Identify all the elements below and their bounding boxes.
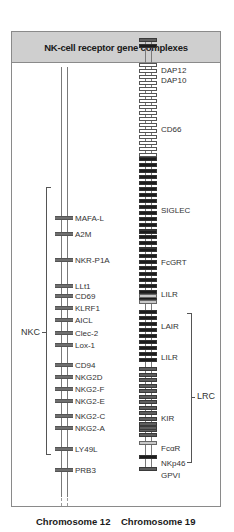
chr19-gene-label: KIR: [161, 414, 174, 423]
chr19-gene-block: [139, 378, 157, 382]
chr12-gene-marker: [55, 426, 73, 430]
chr19-gene-block: [139, 384, 157, 388]
nkc-label: NKC: [21, 328, 40, 337]
chr19-gene-block: [139, 223, 157, 227]
chr19-gene-block: [139, 294, 157, 298]
chr12-rail-right-dashed: [67, 498, 68, 506]
chr19-gene-block: [139, 163, 157, 167]
chr12-gene-marker: [55, 216, 73, 220]
chr19-gene-label: SIGLEC: [161, 206, 190, 215]
chr19-gene-block: [139, 395, 157, 399]
chr19-gene-block: [139, 241, 157, 245]
chr19-gene-block: [139, 411, 157, 415]
chr12-gene-label: KLRF1: [75, 304, 100, 313]
chr19-gene-block: [139, 211, 157, 215]
chr19-gene-label: FcαR: [161, 444, 180, 453]
chr19-gene-block: [139, 417, 157, 421]
chr19-gene-block: [139, 111, 157, 115]
chr19-gene-block: [139, 340, 157, 344]
chr12-rail-left-dashed: [61, 498, 62, 506]
chr19-gene-block: [139, 44, 157, 48]
chr12-gene-marker: [55, 414, 73, 418]
chr19-gene-block: [139, 87, 157, 91]
figure-frame: NK-cell receptor gene complexes MAFA-LA2…: [11, 31, 221, 507]
chr12-gene-marker: [55, 258, 73, 262]
chr19-gene-block: [139, 272, 157, 276]
chr12-gene-label: PRB3: [75, 466, 96, 475]
chr19-gene-label: FcGRT: [161, 258, 187, 267]
chr12-gene-label: CD69: [75, 292, 95, 301]
chr12-gene-marker: [55, 294, 73, 298]
chr19-gene-block: [139, 278, 157, 282]
figure-title: NK-cell receptor gene complexes: [44, 42, 188, 53]
chr19-gene-block: [139, 433, 157, 437]
chr19-gene-block: [139, 135, 157, 139]
chr12-gene-label: NKG2-E: [75, 397, 105, 406]
chr19-gene-block: [139, 406, 157, 410]
lrc-bracket: [187, 313, 192, 463]
chr19-gene-block: [139, 467, 157, 471]
chr19-gene-block: [139, 181, 157, 185]
chr19-gene-block: [139, 260, 157, 264]
chr19-gene-block: [139, 367, 157, 371]
chr12-gene-marker: [55, 306, 73, 310]
chr19-gene-block: [139, 328, 157, 332]
chr12-gene-label: NKG2D: [75, 373, 103, 382]
chr12-rail-right: [67, 67, 68, 497]
chr19-gene-block: [139, 346, 157, 350]
chr12-gene-label: MAFA-L: [75, 214, 104, 223]
chr12-gene-marker: [55, 232, 73, 236]
chr19-gene-label: NKp46: [161, 459, 185, 468]
chr19-gene-label: GPVI: [161, 471, 180, 480]
chr19-gene-label: DAP12: [161, 66, 186, 75]
chr19-gene-block: [139, 235, 157, 239]
chr12-gene-label: NKR-P1A: [75, 256, 110, 265]
chr19-gene-block: [139, 441, 157, 445]
chr19-gene-block: [139, 205, 157, 209]
chr19-gene-block: [139, 217, 157, 221]
chr19-gene-block: [139, 75, 157, 79]
lrc-label: LRC: [197, 392, 215, 401]
lrc-tick: [192, 397, 195, 398]
chr19-gene-block: [139, 389, 157, 393]
chr19-gene-block: [139, 38, 157, 42]
chr19-gene-block: [139, 266, 157, 270]
chr19-gene-block: [139, 230, 157, 234]
chr19-gene-block: [139, 400, 157, 404]
chr19-gene-block: [139, 352, 157, 356]
chr19-gene-block: [139, 105, 157, 109]
chr19-gene-block: [139, 334, 157, 338]
chr19-gene-label: LILR: [161, 290, 178, 299]
chr19-gene-block: [139, 147, 157, 151]
chr19-gene-label: LILR: [161, 353, 178, 362]
chr19-gene-block: [139, 63, 157, 67]
chr19-gene-block: [139, 93, 157, 97]
chr19-gene-block: [139, 358, 157, 362]
chr19-gene-label: CD66: [161, 125, 181, 134]
chr12-gene-label: LLt1: [75, 282, 91, 291]
chr12-gene-label: LY49L: [75, 445, 98, 454]
chr19-gene-block: [139, 175, 157, 179]
figure-header: NK-cell receptor gene complexes: [12, 32, 220, 63]
chr19-gene-block: [139, 69, 157, 73]
chr19-gene-block: [139, 123, 157, 127]
chr19-gene-label: DAP10: [161, 76, 186, 85]
chr19-gene-block: [139, 129, 157, 133]
chr12-gene-label: NKG2-A: [75, 424, 105, 433]
chr19-gene-block: [139, 99, 157, 103]
nkc-tick: [42, 332, 46, 333]
chr12-gene-marker: [55, 447, 73, 451]
chr19-gene-block: [139, 310, 157, 314]
chr12-gene-marker: [55, 284, 73, 288]
chr12-gene-marker: [55, 375, 73, 379]
chr12-gene-label: CD94: [75, 361, 95, 370]
chr12-rail-left: [61, 67, 62, 497]
chr19-gene-block: [139, 169, 157, 173]
chr12-gene-marker: [55, 331, 73, 335]
chr12-gene-label: A2M: [75, 230, 91, 239]
chr19-gene-block: [139, 157, 157, 161]
chr19-gene-label: LAIR: [161, 322, 179, 331]
chr19-gene-block: [139, 199, 157, 203]
chr19-gene-block: [139, 187, 157, 191]
chr12-gene-label: NKG2-C: [75, 412, 105, 421]
